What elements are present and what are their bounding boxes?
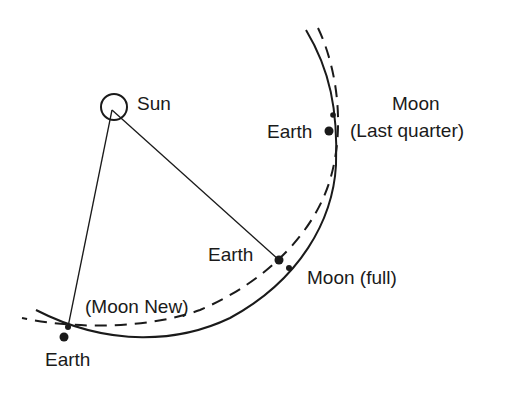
moon-new-label: (Moon New) xyxy=(85,297,188,316)
moon-orbit-solid xyxy=(36,30,336,337)
sun-to-moon-new-line xyxy=(68,110,112,327)
moon-new-point xyxy=(65,324,71,330)
moon-full-point xyxy=(286,265,292,271)
moon-last-quarter-label-line1: Moon xyxy=(392,94,440,113)
moon-last-quarter-label-line2: (Last quarter) xyxy=(350,121,464,140)
moon-full-label: Moon (full) xyxy=(307,268,397,287)
orbit-diagram xyxy=(0,0,506,395)
sun-label: Sun xyxy=(137,94,171,113)
earth-full-label: Earth xyxy=(208,245,253,264)
earth-new-point xyxy=(60,333,69,342)
moon-last-quarter-point xyxy=(330,112,336,118)
sun-icon xyxy=(101,94,127,120)
earth-full-point xyxy=(275,256,284,265)
earth-last-quarter-point xyxy=(325,127,334,136)
sun-to-earth-full-line xyxy=(112,110,279,260)
earth-last-quarter-label: Earth xyxy=(267,122,312,141)
earth-new-label: Earth xyxy=(45,350,90,369)
earth-orbit-dashed xyxy=(22,28,338,326)
